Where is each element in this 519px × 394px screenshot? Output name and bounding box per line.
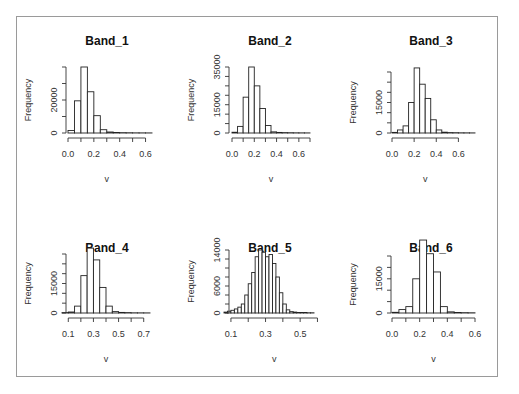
x-tick-label: 0.4 [113,149,126,159]
histogram-bar [414,68,420,133]
x-tick-label: 0.2 [413,329,426,339]
histogram-bar [272,264,275,314]
histogram-bar [290,312,293,313]
histogram-bar [87,248,93,313]
histogram-bars [62,248,150,313]
histogram-bar [293,312,296,313]
x-tick-label: 0.7 [137,329,150,339]
histogram-bar [392,132,398,133]
histogram-bar [68,131,74,133]
histogram-bar [94,116,100,133]
x-axis-label: v [431,354,436,364]
histogram-bar [420,240,427,313]
x-axis-label: v [269,174,274,184]
panel-title: Band_1 [85,34,129,48]
x-tick-label: 0.6 [293,149,306,159]
histogram-bar [74,101,80,133]
histogram-bar [409,103,415,134]
histogram-bar [238,307,241,313]
x-tick-label: 0.6 [469,329,482,339]
histogram-bar [119,312,125,313]
y-tick-label: 15000 [212,92,222,117]
x-tick-label: 0.5 [294,329,307,339]
y-tick-label: 0 [374,310,384,315]
histogram-bar [68,312,74,313]
histogram-bar [254,86,260,133]
y-tick-label: 15000 [374,90,384,115]
histogram-bar [420,84,426,133]
histogram-bar [81,276,87,313]
histogram-panel-band-3: Band_30150000.00.20.40.6Frequencyv [348,34,475,184]
histogram-bar [431,120,437,133]
histogram-bar [425,98,431,133]
histogram-bar [413,279,420,313]
x-axis-label: v [105,174,110,184]
histogram-bar [100,130,106,133]
y-tick-label: 20000 [49,87,59,112]
x-tick-label: 0.2 [408,149,421,159]
histogram-bar [427,254,434,313]
histogram-bar [248,284,251,313]
histogram-bars [68,67,152,133]
y-tick-label: 15000 [374,266,384,291]
histogram-bar [406,307,413,313]
histogram-bar [399,310,406,313]
x-tick-label: 0.2 [248,149,261,159]
y-axis-label: Frequency [186,260,196,303]
histogram-bar [286,310,289,313]
histogram-bar [260,108,266,133]
histogram-bar [279,293,282,313]
histogram-bar [398,130,404,133]
y-tick-label: 0 [212,130,222,135]
histogram-bar [107,132,113,133]
x-tick-label: 0.4 [441,329,454,339]
histogram-bars [232,67,310,133]
histogram-bar [277,132,283,133]
y-tick-label: 35000 [212,54,222,79]
x-tick-label: 0.1 [62,329,75,339]
x-tick-label: 0.0 [62,149,75,159]
histogram-bar [440,307,447,313]
panel-title: Band_6 [409,241,453,255]
histogram-bar [266,257,269,313]
x-tick-label: 0.0 [226,149,239,159]
x-tick-label: 0.5 [112,329,125,339]
histogram-bar [113,133,119,134]
histogram-bar [269,255,272,314]
panel-title: Band_3 [409,34,453,48]
histogram-grid: Band_10200000.00.20.40.6FrequencyvBand_2… [0,0,519,394]
y-axis-label: Frequency [186,78,196,121]
histogram-bar [106,306,112,313]
y-tick-label: 0 [49,310,59,315]
histogram-bar [403,126,409,133]
y-axis-label: Frequency [348,81,358,124]
histogram-bar [392,312,399,313]
histogram-bar [259,250,262,313]
histogram-bars [392,68,475,133]
y-tick-label: 14000 [212,237,222,262]
histogram-bar [241,304,244,313]
histogram-bar [231,310,234,313]
y-axis-label: Frequency [23,262,33,305]
x-tick-label: 0.4 [270,149,283,159]
histogram-bar [87,92,93,133]
x-tick-label: 0.0 [386,149,399,159]
x-tick-label: 0.6 [452,149,465,159]
y-axis-label: Frequency [23,78,33,121]
x-tick-label: 0.0 [386,329,399,339]
panel-title: Band_2 [248,34,292,48]
histogram-bar [271,132,277,133]
x-tick-label: 0.2 [88,149,101,159]
x-tick-label: 0.3 [259,329,272,339]
y-tick-label: 0 [374,130,384,135]
x-axis-label: v [104,354,109,364]
x-tick-label: 0.4 [430,149,443,159]
histogram-bar [276,277,279,313]
histogram-bar [265,125,271,133]
y-tick-label: 6000 [212,276,222,296]
y-tick-label: 15000 [49,271,59,296]
histogram-bar [283,304,286,313]
histogram-bar [100,287,106,313]
histogram-bar [238,126,244,133]
histogram-bar [434,272,441,313]
